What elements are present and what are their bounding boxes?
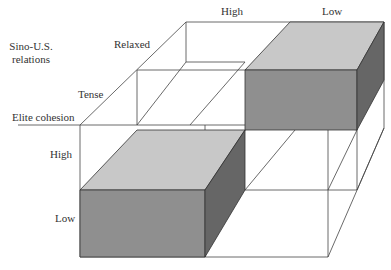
label-top-low: Low xyxy=(322,5,342,18)
lower-shaded-box xyxy=(80,130,245,257)
axis-label-sino-us-line1: Sino-U.S. xyxy=(8,40,54,53)
label-tense: Tense xyxy=(78,88,104,101)
lower-box-front xyxy=(80,190,205,257)
upper-shaded-box xyxy=(245,22,384,130)
upper-box-front xyxy=(245,70,357,130)
label-top-high: High xyxy=(221,5,243,18)
axis-label-sino-us-line2: relations xyxy=(8,53,54,66)
cube-diagram xyxy=(0,0,391,270)
axis-label-sino-us: Sino-U.S. relations xyxy=(8,40,54,66)
label-left-high: High xyxy=(50,148,72,161)
label-left-low: Low xyxy=(55,212,75,225)
label-elite-cohesion: Elite cohesion xyxy=(12,111,75,124)
label-relaxed: Relaxed xyxy=(114,38,150,51)
